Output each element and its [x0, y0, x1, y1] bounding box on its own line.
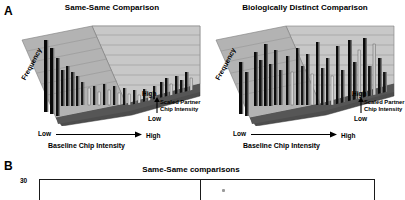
- chart-3d-biologically-distinct: High Scaled Partner Chip Intensity Low: [208, 14, 398, 126]
- bar: [50, 48, 54, 114]
- bar: [61, 70, 65, 106]
- bar: [311, 74, 314, 105]
- y-axis-caption-line1-left: Scaled Partner: [160, 99, 201, 106]
- chart-title-same-same: Same-Same Comparison: [44, 3, 180, 12]
- x-axis-arrow-right: [251, 130, 339, 139]
- panel-b-letter: B: [4, 160, 13, 172]
- panel-b-group-divider: [200, 179, 201, 200]
- bar: [133, 90, 136, 105]
- bar: [113, 86, 116, 105]
- bar: [326, 58, 330, 105]
- bar: [269, 64, 273, 106]
- bar: [316, 42, 320, 105]
- y-axis-low-label-left: Low: [148, 115, 161, 122]
- panel-b-y-tick-30: 30: [20, 177, 27, 184]
- bar: [76, 76, 79, 106]
- bar: [98, 92, 100, 105]
- y-axis-caption-line2-right: Chip Intensity: [364, 106, 402, 113]
- bar: [44, 40, 48, 112]
- bar: [56, 58, 60, 116]
- chart-title-biologically-distinct: Biologically Distinct Comparison: [226, 3, 384, 12]
- bar: [321, 68, 325, 105]
- x-axis-caption-right: Baseline Chip Intensity: [243, 142, 320, 150]
- panel-b-title: Same-Same comparisons: [103, 165, 279, 174]
- x-axis-low-label-right: Low: [233, 130, 246, 137]
- bar: [301, 66, 305, 105]
- bar: [331, 76, 334, 105]
- bar: [81, 82, 84, 105]
- y-axis-caption-line1-right: Scaled Partner: [364, 99, 405, 106]
- bar: [123, 88, 126, 105]
- y-axis-caption-line2-left: Chip Intensity: [160, 106, 198, 113]
- y-axis-arrow-right: [356, 96, 366, 114]
- panel-b-data-point: [222, 189, 225, 192]
- bar: [88, 88, 90, 105]
- bar: [296, 48, 300, 105]
- panel-b-plot-area: [39, 179, 375, 200]
- bar: [286, 56, 290, 105]
- x-axis-high-label-right: High: [341, 132, 355, 139]
- bar: [71, 72, 75, 106]
- bar: [93, 86, 96, 105]
- bar: [254, 52, 258, 106]
- bar: [373, 44, 376, 102]
- bar: [264, 44, 268, 106]
- bar: [336, 46, 340, 105]
- bar: [66, 66, 70, 106]
- bar: [239, 62, 243, 114]
- panel-b-y-tick-mark: [39, 181, 40, 189]
- bar: [245, 72, 249, 116]
- y-axis-low-label-right: Low: [354, 115, 367, 122]
- bar: [118, 93, 120, 105]
- bar: [306, 54, 310, 105]
- x-axis-low-label-left: Low: [38, 130, 51, 137]
- x-axis-arrow-left: [56, 130, 144, 139]
- panel-a-letter: A: [4, 5, 13, 17]
- panel-b: B Same-Same comparisons 30: [0, 158, 403, 200]
- bar: [274, 50, 278, 105]
- bar: [103, 84, 106, 105]
- x-axis-high-label-left: High: [146, 132, 160, 139]
- y-axis-arrow-left: [152, 96, 162, 114]
- bar: [291, 72, 294, 105]
- bar: [259, 60, 263, 106]
- bar: [108, 90, 110, 105]
- bar: [341, 70, 345, 105]
- bar: [279, 70, 283, 105]
- chart-3d-same-same: High Scaled Partner Chip Intensity Low: [14, 14, 204, 126]
- bar: [128, 94, 130, 105]
- x-axis-caption-left: Baseline Chip Intensity: [48, 142, 125, 150]
